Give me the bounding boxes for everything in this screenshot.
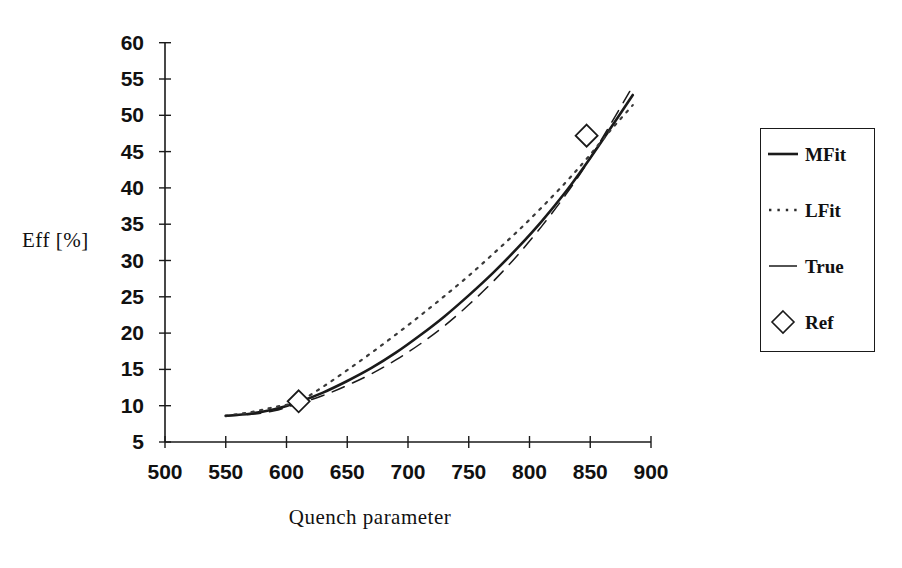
ref-marker: [288, 390, 310, 412]
legend-item-1[interactable]: LFit: [761, 197, 874, 223]
axes: [159, 43, 651, 448]
series-line-true: [226, 86, 633, 416]
legend-item-3[interactable]: Ref: [761, 309, 874, 335]
reference-markers: [288, 125, 598, 413]
ref-marker: [576, 125, 598, 147]
legend-item-2[interactable]: True: [761, 253, 874, 279]
series-line-lfit: [226, 105, 633, 416]
series-line-mfit: [226, 95, 633, 416]
line-solid-icon: [761, 141, 805, 167]
legend-label-mfit: MFit: [805, 145, 846, 164]
chart-figure: Eff [%] Quench parameter 510152025303540…: [0, 0, 902, 568]
legend-item-0[interactable]: MFit: [761, 141, 874, 167]
line-dotted-icon: [761, 197, 805, 223]
legend: MFit LFit True Ref: [760, 128, 875, 352]
legend-label-true: True: [805, 257, 844, 276]
legend-label-lfit: LFit: [805, 201, 841, 220]
legend-label-ref: Ref: [805, 313, 833, 332]
line-dashed-icon: [761, 253, 805, 279]
data-series: [226, 86, 633, 416]
diamond-marker-icon: [761, 309, 805, 335]
